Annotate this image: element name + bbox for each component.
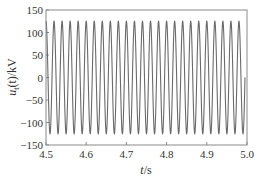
x-tick-label: 5.0 bbox=[240, 148, 254, 160]
y-tick-label: 150 bbox=[27, 4, 44, 16]
x-axis-label: t/s bbox=[140, 163, 152, 177]
y-tick-label: 100 bbox=[27, 27, 44, 39]
svg-text:ut(t)/kV: ut(t)/kV bbox=[5, 58, 21, 96]
y-tick-label: 0 bbox=[38, 72, 44, 84]
x-tick-label: 4.8 bbox=[160, 148, 174, 160]
x-tick-label: 4.9 bbox=[200, 148, 214, 160]
y-tick-label: 50 bbox=[32, 49, 44, 61]
x-axis-label-unit: /s bbox=[144, 163, 152, 177]
x-tick-label: 4.5 bbox=[39, 148, 53, 160]
y-axis-label: ut(t)/kV bbox=[5, 58, 21, 96]
y-tick-label: −100 bbox=[20, 117, 43, 129]
y-tick-label: −50 bbox=[26, 94, 44, 106]
x-tick-label: 4.7 bbox=[120, 148, 134, 160]
y-axis-ticks: −150−100−50050100150 bbox=[20, 4, 49, 151]
x-tick-label: 4.6 bbox=[79, 148, 93, 160]
voltage-waveform-chart: ut(t)/kV −150−100−50050100150 4.54.64.74… bbox=[0, 0, 262, 179]
waveform-line bbox=[46, 21, 245, 134]
y-axis-label-unit: (t)/kV bbox=[5, 58, 19, 88]
